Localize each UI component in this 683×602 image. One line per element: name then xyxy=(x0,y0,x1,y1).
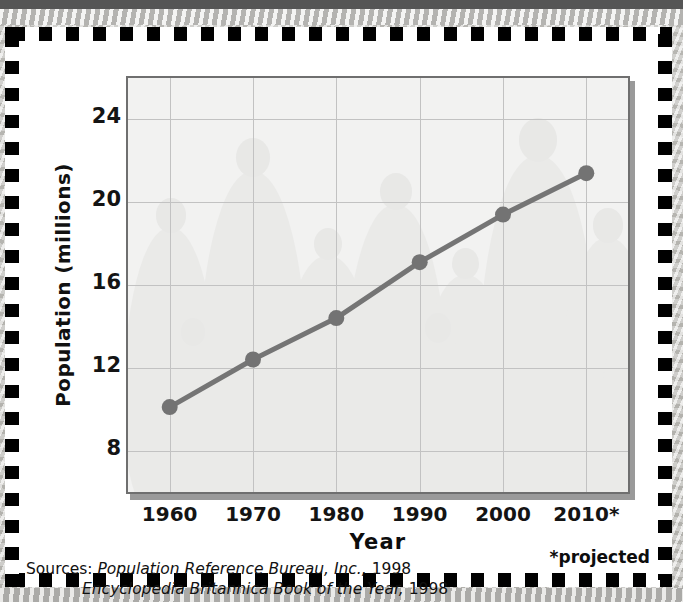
x-axis-ticks: 196019701980199020002010* xyxy=(126,502,630,530)
y-axis-title: Population (millions) xyxy=(51,155,75,415)
x-tick-label: 1960 xyxy=(127,502,213,526)
dashed-frame-left xyxy=(5,34,19,580)
crowd-silhouette-head xyxy=(629,288,631,316)
source-2-title: Encyclopedia Britannica Book of the Year… xyxy=(82,580,404,598)
population-line-series xyxy=(128,78,628,492)
top-light-band xyxy=(0,9,683,25)
x-tick-label: 2000 xyxy=(460,502,546,526)
source-1-title: Population Reference Bureau, Inc., xyxy=(97,560,366,578)
source-2-year: 1998 xyxy=(404,580,448,598)
plot-area xyxy=(126,76,630,494)
x-tick-label: 1990 xyxy=(377,502,463,526)
x-tick-label: 1980 xyxy=(293,502,379,526)
data-point-marker xyxy=(162,399,178,415)
sources-note: Sources: Population Reference Bureau, In… xyxy=(26,559,448,599)
x-tick-label: 2010* xyxy=(543,502,629,526)
x-tick-label: 1970 xyxy=(210,502,296,526)
series-line xyxy=(170,173,587,407)
data-point-marker xyxy=(495,207,511,223)
source-line-2: Encyclopedia Britannica Book of the Year… xyxy=(26,579,448,599)
y-tick-label: 20 xyxy=(75,187,121,211)
data-point-marker xyxy=(328,310,344,326)
y-tick-label: 8 xyxy=(75,436,121,460)
y-tick-label: 12 xyxy=(75,353,121,377)
source-1-year: 1998 xyxy=(367,560,411,578)
source-line-1: Sources: Population Reference Bureau, In… xyxy=(26,559,448,579)
dashed-frame-top xyxy=(12,27,665,41)
dashed-frame: 812162024 Population (millions) 19601970… xyxy=(5,27,672,587)
data-point-marker xyxy=(412,254,428,270)
projected-footnote: *projected xyxy=(550,547,650,567)
top-dark-band xyxy=(0,0,683,9)
y-tick-label: 16 xyxy=(75,270,121,294)
sources-prefix: Sources: xyxy=(26,560,93,578)
figure-card: 812162024 Population (millions) 19601970… xyxy=(19,41,658,573)
y-tick-label: 24 xyxy=(75,104,121,128)
data-point-marker xyxy=(245,352,261,368)
dashed-frame-right xyxy=(658,34,672,580)
data-point-marker xyxy=(578,165,594,181)
figure-page: 812162024 Population (millions) 19601970… xyxy=(0,0,683,602)
